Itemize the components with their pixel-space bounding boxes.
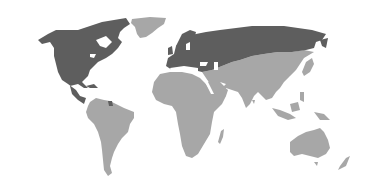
caspian-sea xyxy=(214,62,218,70)
region-new-zealand[interactable] xyxy=(338,156,350,170)
region-south-america[interactable] xyxy=(86,98,134,176)
region-japan[interactable] xyxy=(302,58,314,76)
region-caribbean[interactable] xyxy=(86,84,98,88)
region-north-america[interactable] xyxy=(38,18,130,104)
region-philippines[interactable] xyxy=(300,92,304,102)
region-greenland[interactable] xyxy=(131,17,166,38)
region-sri-lanka[interactable] xyxy=(252,100,255,104)
region-new-guinea[interactable] xyxy=(314,112,330,120)
region-borneo[interactable] xyxy=(290,102,300,112)
world-map xyxy=(0,0,370,195)
region-madagascar[interactable] xyxy=(218,129,224,144)
region-australia[interactable] xyxy=(290,128,330,158)
region-uk[interactable] xyxy=(168,46,173,55)
region-tasmania[interactable] xyxy=(314,162,318,166)
